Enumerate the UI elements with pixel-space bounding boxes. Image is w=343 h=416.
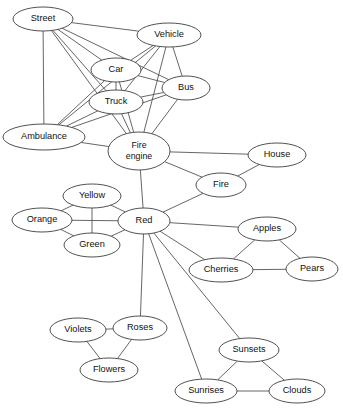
graph-node-yellow[interactable]: Yellow xyxy=(63,184,121,208)
node-shape-car xyxy=(91,58,141,82)
graph-edge-apples-cherries xyxy=(233,240,254,259)
node-shape-cherries xyxy=(189,258,253,282)
graph-node-street[interactable]: Street xyxy=(13,7,73,31)
graph-node-fire[interactable]: Fire xyxy=(196,173,246,197)
node-shape-sunrises xyxy=(175,379,237,403)
graph-edge-vehicle-bus xyxy=(173,47,182,76)
graph-edge-orange-green xyxy=(61,229,74,236)
node-shape-red xyxy=(118,208,170,234)
graph-edge-fire_engine-house xyxy=(170,152,248,154)
graph-edge-red-sunrises xyxy=(149,234,202,379)
node-shape-sunsets xyxy=(219,338,279,362)
graph-node-green[interactable]: Green xyxy=(64,233,120,257)
graph-node-truck[interactable]: Truck xyxy=(89,90,143,114)
node-shape-clouds xyxy=(269,379,325,403)
graph-node-violets[interactable]: Violets xyxy=(50,318,106,342)
graph-edge-fire_engine-fire xyxy=(165,162,202,178)
graph-edge-apples-pears xyxy=(279,240,300,258)
graph-node-flowers[interactable]: Flowers xyxy=(80,358,138,382)
graph-edge-street-ambulance xyxy=(43,31,44,124)
node-shape-roses xyxy=(113,316,167,340)
node-shape-house xyxy=(248,143,306,167)
graph-node-clouds[interactable]: Clouds xyxy=(269,379,325,403)
graph-edge-green-red xyxy=(111,230,125,236)
graph-edge-red-sunsets xyxy=(154,233,240,339)
graph-node-apples[interactable]: Apples xyxy=(238,217,296,241)
node-shape-flowers xyxy=(80,358,138,382)
node-shape-orange xyxy=(12,208,72,232)
graph-edge-bus-fire_engine xyxy=(152,99,178,133)
graph-edge-yellow-red xyxy=(111,205,125,212)
graph-node-house[interactable]: House xyxy=(248,143,306,167)
graph-edge-violets-flowers xyxy=(87,341,100,358)
graph-edge-fire_engine-red xyxy=(140,170,143,208)
graph-edge-bus-truck xyxy=(141,92,164,97)
graph-edge-house-fire xyxy=(238,165,260,177)
graph-edge-ambulance-fire_engine xyxy=(81,142,109,146)
node-shape-violets xyxy=(50,318,106,342)
graph-edge-red-apples xyxy=(170,223,239,227)
graph-edge-yellow-orange xyxy=(61,205,73,211)
node-shape-vehicle xyxy=(137,23,201,47)
node-shape-ambulance xyxy=(3,124,85,150)
graph-node-fire_engine[interactable]: Fireengine xyxy=(108,132,170,170)
graph-edge-street-vehicle xyxy=(72,23,139,32)
node-shape-apples xyxy=(238,217,296,241)
graph-edge-sunsets-sunrises xyxy=(218,361,238,380)
graph-edge-street-car xyxy=(58,29,102,60)
node-shape-pears xyxy=(286,257,338,281)
graph-node-orange[interactable]: Orange xyxy=(12,208,72,232)
graph-node-red[interactable]: Red xyxy=(118,208,170,234)
graph-node-cherries[interactable]: Cherries xyxy=(189,258,253,282)
graph-edge-street-truck xyxy=(53,30,106,91)
node-shape-fire_engine xyxy=(108,132,170,170)
graph-node-vehicle[interactable]: Vehicle xyxy=(137,23,201,47)
node-shape-yellow xyxy=(63,184,121,208)
graph-edge-fire-red xyxy=(163,193,203,212)
node-shape-truck xyxy=(89,90,143,114)
graph-node-pears[interactable]: Pears xyxy=(286,257,338,281)
node-shape-street xyxy=(13,7,73,31)
node-shape-fire xyxy=(196,173,246,197)
graph-node-ambulance[interactable]: Ambulance xyxy=(3,124,85,150)
graph-edge-roses-flowers xyxy=(117,339,131,358)
node-shape-green xyxy=(64,233,120,257)
graph-edge-vehicle-car xyxy=(131,45,154,60)
graph-canvas: StreetVehicleCarBusTruckAmbulanceFireeng… xyxy=(0,0,343,416)
semantic-network-diagram: StreetVehicleCarBusTruckAmbulanceFireeng… xyxy=(0,0,343,416)
graph-edge-red-roses xyxy=(140,234,143,316)
graph-edge-sunsets-clouds xyxy=(262,361,285,380)
graph-node-sunrises[interactable]: Sunrises xyxy=(175,379,237,403)
graph-edge-car-bus xyxy=(138,76,165,83)
graph-node-sunsets[interactable]: Sunsets xyxy=(219,338,279,362)
graph-node-roses[interactable]: Roses xyxy=(113,316,167,340)
node-layer: StreetVehicleCarBusTruckAmbulanceFireeng… xyxy=(3,7,338,403)
graph-node-bus[interactable]: Bus xyxy=(162,76,210,100)
graph-node-car[interactable]: Car xyxy=(91,58,141,82)
node-shape-bus xyxy=(162,76,210,100)
graph-edge-red-cherries xyxy=(160,231,205,259)
